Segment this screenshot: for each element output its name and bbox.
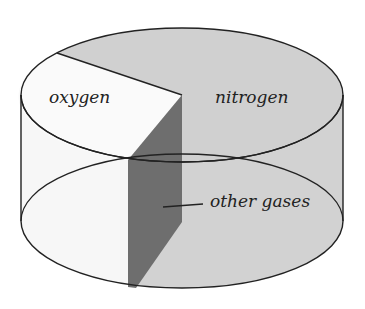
chart-canvas: oxygen nitrogen other gases — [0, 0, 365, 309]
nitrogen-label: nitrogen — [215, 87, 288, 107]
other-gases-label: other gases — [210, 191, 310, 211]
oxygen-label: oxygen — [49, 87, 110, 107]
gas-composition-cylinder-chart: oxygen nitrogen other gases — [0, 0, 365, 309]
